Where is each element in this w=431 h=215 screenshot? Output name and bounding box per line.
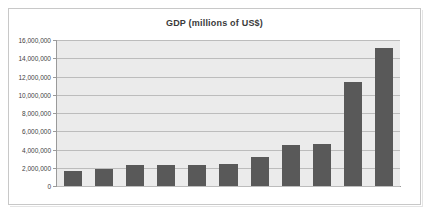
bar[interactable] [157,165,175,186]
bar[interactable] [375,48,393,186]
bar[interactable] [95,169,113,186]
y-axis-tick-mark [53,77,56,78]
y-axis-tick-label: 8,000,000 [7,110,51,117]
bar[interactable] [282,145,300,186]
y-axis-tick-label: 6,000,000 [7,128,51,135]
y-axis-tick-mark [53,113,56,114]
chart-title: GDP (millions of US$) [9,18,420,28]
gridline [57,186,400,187]
y-axis-tick-label: 12,000,000 [7,73,51,80]
y-axis-tick-mark [53,168,56,169]
bar[interactable] [219,164,237,186]
y-axis-tick-label: 4,000,000 [7,146,51,153]
y-axis-tick-label: 14,000,000 [7,55,51,62]
bar[interactable] [126,165,144,186]
bar[interactable] [313,144,331,186]
y-axis-tick-label: 2,000,000 [7,164,51,171]
bar[interactable] [64,171,82,186]
y-axis-tick-label: 0 [7,183,51,190]
plot-area [57,40,400,186]
bar[interactable] [188,165,206,186]
y-axis-tick-mark [53,131,56,132]
y-axis-tick-label: 10,000,000 [7,91,51,98]
y-axis-tick-mark [53,150,56,151]
y-axis-tick-mark [53,40,56,41]
y-axis-tick-mark [53,58,56,59]
gridline [57,40,400,41]
y-axis-labels: 16,000,00014,000,00012,000,00010,000,000… [9,9,51,204]
y-axis-tick-label: 16,000,000 [7,37,51,44]
gridline [57,58,400,59]
screenshot-page: GDP (millions of US$) 16,000,00014,000,0… [0,0,431,215]
y-axis-tick-mark [53,186,56,187]
gridline [57,77,400,78]
gdp-bar-chart[interactable]: GDP (millions of US$) 16,000,00014,000,0… [9,9,420,204]
bar[interactable] [344,82,362,186]
bar[interactable] [251,157,269,186]
y-axis-tick-mark [53,95,56,96]
